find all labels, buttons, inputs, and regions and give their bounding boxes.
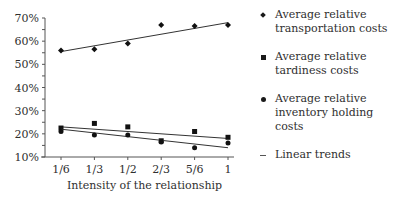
legend-label: Average relative [275, 50, 404, 64]
dot-marker-icon [226, 141, 231, 146]
legend-label: transportation costs [275, 22, 404, 36]
dot-marker-icon [192, 145, 197, 150]
square-marker-icon [125, 124, 130, 129]
diamond-marker-icon [91, 46, 97, 52]
diamond-marker-icon [58, 47, 64, 53]
y-tick-label: 10% [15, 151, 39, 164]
legend-item-transportation: Average relative transportation costs [258, 8, 404, 36]
x-tick-label: 1/6 [52, 163, 70, 176]
legend-item-tardiness: Average relative tardiness costs [258, 50, 404, 78]
legend-label: Linear trends [275, 148, 404, 162]
y-tick-label: 40% [15, 82, 39, 95]
square-marker-icon [261, 55, 266, 60]
dot-marker-icon [92, 132, 97, 137]
x-tick-label: 1 [225, 163, 232, 176]
x-axis-title: Intensity of the relationship [67, 179, 222, 192]
legend-label: tardiness costs [275, 64, 404, 78]
trend-line [61, 127, 228, 139]
dot-marker-icon [59, 129, 64, 134]
dot-marker-icon [125, 132, 130, 137]
dot-marker-icon [159, 139, 164, 144]
legend: Average relative transportation costs Av… [258, 8, 404, 176]
square-marker-icon [192, 129, 197, 134]
square-marker-icon [92, 121, 97, 126]
x-tick-label: 5/6 [186, 163, 204, 176]
x-tick-label: 1/2 [119, 163, 137, 176]
square-marker-icon [226, 135, 231, 140]
trend-line [61, 129, 228, 148]
chart-plot-area: 10%20%30%40%50%60%70%1/61/31/22/35/61Int… [0, 0, 250, 207]
y-tick-label: 20% [15, 128, 39, 141]
x-tick-label: 1/3 [86, 163, 104, 176]
legend-item-inventory: Average relative inventory holding costs [258, 92, 404, 134]
y-tick-label: 50% [15, 58, 39, 71]
trend-line [61, 23, 228, 52]
legend-item-linear-trends: Linear trends [258, 148, 404, 162]
legend-label: Average relative [275, 92, 404, 106]
legend-label: inventory holding costs [275, 106, 404, 134]
diamond-marker-icon [260, 12, 266, 18]
y-tick-label: 70% [15, 12, 39, 25]
y-tick-label: 60% [15, 35, 39, 48]
legend-label: Average relative [275, 8, 404, 22]
diamond-marker-icon [158, 22, 164, 28]
dot-marker-icon [261, 97, 266, 102]
y-tick-label: 30% [15, 105, 39, 118]
line-marker-icon [260, 155, 266, 156]
x-tick-label: 2/3 [152, 163, 170, 176]
diamond-marker-icon [125, 40, 131, 46]
